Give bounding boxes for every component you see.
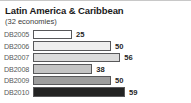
- bar-row: DB200525: [0, 29, 191, 41]
- bar-row: DB200756: [0, 52, 191, 64]
- bar-row: DB201059: [0, 87, 191, 99]
- bar-category-label: DB2010: [4, 88, 29, 97]
- bar-value-label: 50: [115, 76, 123, 85]
- bar-value-label: 59: [129, 88, 137, 97]
- bar-category-label: DB2009: [4, 76, 29, 85]
- bar-db2010: [33, 87, 125, 97]
- bar-db2006: [33, 41, 111, 51]
- bar-row: DB200950: [0, 75, 191, 87]
- chart-subtitle: (32 economies): [5, 17, 57, 26]
- bar-value-label: 56: [124, 53, 132, 62]
- bar-value-label: 25: [76, 30, 84, 39]
- top-divider: [0, 0, 191, 1]
- bar-row: DB200650: [0, 41, 191, 53]
- bar-category-label: DB2007: [4, 53, 29, 62]
- bar-category-label: DB2006: [4, 42, 29, 51]
- bar-db2008: [33, 64, 92, 74]
- bar-category-label: DB2008: [4, 65, 29, 74]
- bar-db2009: [33, 76, 111, 86]
- bar-value-label: 38: [96, 65, 104, 74]
- chart-title: Latin America & Caribbean: [5, 5, 124, 16]
- chart-card: Latin America & Caribbean (32 economies)…: [0, 0, 191, 103]
- bar-category-label: DB2005: [4, 30, 29, 39]
- bar-db2005: [33, 30, 72, 40]
- bar-value-label: 50: [115, 42, 123, 51]
- bar-db2007: [33, 53, 120, 63]
- bar-chart-plot: DB200525DB200650DB200756DB200838DB200950…: [0, 29, 191, 101]
- bar-row: DB200838: [0, 64, 191, 76]
